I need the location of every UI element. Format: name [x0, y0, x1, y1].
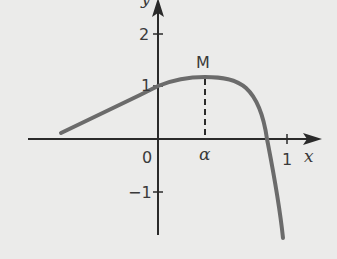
x-axis-label: x: [304, 146, 314, 166]
y-tick-label-neg1: −1: [128, 183, 152, 202]
y-axis-label: y: [140, 0, 151, 8]
alpha-label: α: [199, 144, 211, 164]
function-graph: y 2 1 −1 0 1 x M α: [0, 0, 337, 259]
point-m-label: M: [196, 53, 210, 72]
origin-label: 0: [142, 148, 152, 167]
x-tick-label-1: 1: [282, 150, 292, 169]
y-tick-label-2: 2: [139, 25, 149, 44]
function-curve: [61, 77, 283, 238]
y-tick-label-1: 1: [141, 76, 151, 95]
